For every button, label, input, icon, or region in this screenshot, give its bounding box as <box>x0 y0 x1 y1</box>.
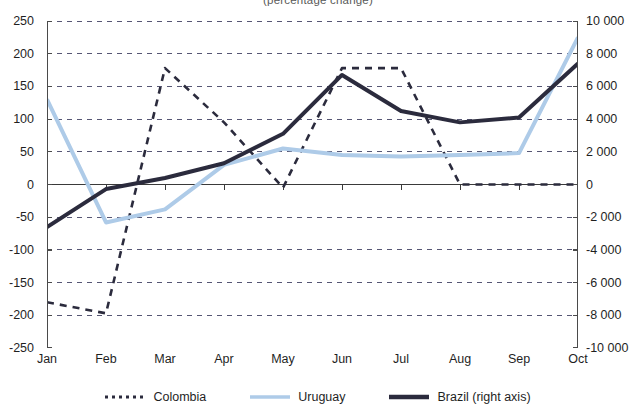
left-axis-tick-label: 50 <box>20 146 41 158</box>
left-axis-tick-label: -100 <box>9 244 41 256</box>
x-axis-tick-label: Oct <box>568 352 587 366</box>
dashed-line-swatch <box>105 392 145 402</box>
left-axis-tick-label: 150 <box>13 80 41 92</box>
legend-item[interactable]: Brazil (right axis) <box>389 390 530 404</box>
x-axis-labels: JanFebMarAprMayJunJulAugSepOct <box>47 352 578 370</box>
x-axis-tick-label: Jun <box>332 352 352 366</box>
legend-item[interactable]: Colombia <box>105 390 206 404</box>
x-axis-tick-label: Apr <box>214 352 233 366</box>
right-axis-tick-label: 8 000 <box>578 48 617 60</box>
series-line-uruguay <box>47 37 578 222</box>
left-axis-tick-label: -50 <box>16 211 41 223</box>
left-axis-tick-label: 200 <box>13 48 41 60</box>
right-axis-tick-label: 10 000 <box>578 15 624 27</box>
right-axis-tick-label: -6 000 <box>578 277 621 289</box>
right-axis-tick-label: 6 000 <box>578 80 617 92</box>
x-axis-tick-label: May <box>271 352 295 366</box>
chart-title: (percentage change) <box>0 0 636 6</box>
plot-svg <box>47 21 578 348</box>
thick-line-swatch <box>389 392 429 402</box>
x-axis-tick-label: Feb <box>95 352 117 366</box>
left-axis-tick-label: -150 <box>9 277 41 289</box>
left-axis-tick-label: 100 <box>13 113 41 125</box>
right-axis-tick-label: -8 000 <box>578 309 621 321</box>
chart-container: (percentage change) 250200150100500-50-1… <box>0 0 636 415</box>
x-axis-tick-label: Jan <box>37 352 57 366</box>
right-axis-tick-label: -4 000 <box>578 244 621 256</box>
left-axis-tick-label: 250 <box>13 15 41 27</box>
x-axis-tick-label: Jul <box>393 352 409 366</box>
right-axis-tick-label: 0 <box>578 179 593 191</box>
left-axis-tick-label: 0 <box>27 179 41 191</box>
right-axis-tick-label: -2 000 <box>578 211 621 223</box>
legend-label: Brazil (right axis) <box>437 390 530 404</box>
right-axis-tick-label: 2 000 <box>578 146 617 158</box>
left-axis-tick-label: -200 <box>9 309 41 321</box>
solid-line-swatch <box>250 392 290 402</box>
legend-label: Colombia <box>153 390 206 404</box>
x-axis-tick-label: Aug <box>449 352 471 366</box>
x-axis-tick-label: Mar <box>154 352 176 366</box>
right-axis-tick-label: 4 000 <box>578 113 617 125</box>
series-line-brazil <box>47 64 578 228</box>
chart-legend: ColombiaUruguayBrazil (right axis) <box>0 386 636 408</box>
legend-item[interactable]: Uruguay <box>250 390 345 404</box>
x-axis-tick-label: Sep <box>508 352 530 366</box>
plot-area <box>47 21 578 348</box>
legend-label: Uruguay <box>298 390 345 404</box>
